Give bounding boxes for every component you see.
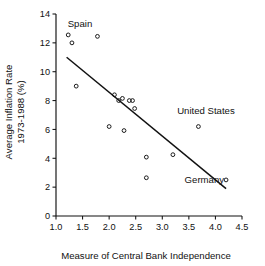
y-tick-label: 10 [40, 67, 50, 77]
annotation-label: Germany [185, 174, 225, 185]
annotation-label: United States [177, 105, 235, 116]
data-point-marker [133, 107, 137, 111]
x-tick-label: 1.5 [76, 222, 89, 232]
trend-line [67, 57, 226, 188]
chart-figure: Average Inflation Rate 1973-1988 (%) 024… [0, 0, 265, 266]
x-tick-label: 3.5 [182, 222, 195, 232]
data-point-marker [121, 97, 125, 101]
y-axis-ticks: 02468101214 [40, 9, 56, 221]
data-point-marker [66, 33, 70, 37]
y-axis-title-line2: 1973-1988 (%) [15, 80, 26, 143]
y-tick-label: 8 [45, 96, 50, 106]
x-tick-label: 4.0 [209, 222, 222, 232]
y-tick-label: 12 [40, 38, 50, 48]
y-tick-label: 4 [45, 154, 50, 164]
data-point-marker [122, 129, 126, 133]
x-tick-label: 1.0 [50, 222, 63, 232]
x-tick-label: 2.5 [129, 222, 142, 232]
data-point-marker [96, 34, 100, 38]
x-tick-label: 2.0 [103, 222, 116, 232]
data-point-marker [197, 125, 201, 129]
data-point-marker [144, 176, 148, 180]
y-tick-label: 6 [45, 125, 50, 135]
data-point-marker [171, 153, 175, 157]
y-tick-label: 2 [45, 182, 50, 192]
scatter-plot-canvas: Average Inflation Rate 1973-1988 (%) 024… [0, 0, 265, 266]
x-tick-label: 3.0 [156, 222, 169, 232]
data-point-marker [144, 155, 148, 159]
y-tick-label: 0 [45, 211, 50, 221]
data-point-marker [74, 84, 78, 88]
data-point-marker [70, 41, 74, 45]
x-tick-label: 4.5 [236, 222, 249, 232]
point-annotations: SpainUnited StatesGermany [68, 18, 235, 185]
y-axis-title: Average Inflation Rate 1973-1988 (%) [3, 65, 26, 160]
data-point-marker [107, 125, 111, 129]
annotation-label: Spain [68, 18, 93, 29]
data-point-marker [224, 178, 228, 182]
y-tick-label: 14 [40, 9, 50, 19]
x-axis-ticks: 1.01.52.02.53.03.54.04.5 [50, 216, 249, 232]
x-axis-title: Measure of Central Bank Independence [61, 250, 231, 261]
y-axis-title-line1: Average Inflation Rate [3, 65, 14, 160]
